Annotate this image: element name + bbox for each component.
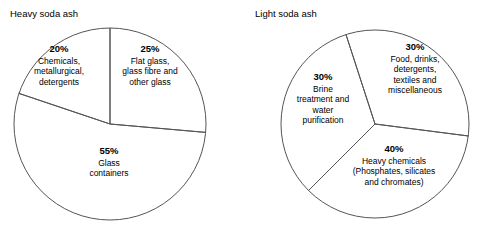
pie-chart-heavy-soda-ash: Heavy soda ash 20% Chemicals, metallurgi… (0, 0, 245, 233)
pie-figure-light: 30% Food, drinks, detergents, textiles a… (275, 24, 475, 224)
pie-figure-heavy: 20% Chemicals, metallurgical, detergents… (8, 22, 213, 227)
pie-slice-text-light-2: Heavy chemicals (Phosphates, silicates a… (331, 156, 457, 188)
pie-slice-label-heavy-1: 25% Flat glass, glass fibre and other gl… (112, 44, 188, 87)
pie-slice-text-light-1: Brine treatment and water purification (287, 84, 359, 126)
pie-slice-text-heavy-0: Chemicals, metallurgical, detergents (20, 56, 98, 88)
pie-slice-label-light-0: 30% Food, drinks, detergents, textiles a… (371, 42, 459, 96)
pie-slice-percent-heavy-0: 20% (20, 44, 98, 55)
pie-slice-label-light-2: 40% Heavy chemicals (Phosphates, silicat… (331, 144, 457, 187)
chart-title-heavy: Heavy soda ash (10, 8, 78, 19)
pie-slice-text-light-0: Food, drinks, detergents, textiles and m… (371, 54, 459, 96)
chart-title-light: Light soda ash (255, 8, 317, 19)
pie-chart-light-soda-ash: Light soda ash 30% Food, drinks, deterge… (245, 0, 490, 233)
pie-slice-percent-light-0: 30% (371, 42, 459, 53)
pie-slice-text-heavy-1: Flat glass, glass fibre and other glass (112, 56, 188, 88)
pie-slice-label-heavy-0: 20% Chemicals, metallurgical, detergents (20, 44, 98, 87)
pie-slice-percent-light-2: 40% (331, 144, 457, 155)
pie-slice-label-light-1: 30% Brine treatment and water purificati… (287, 72, 359, 126)
pie-slice-label-heavy-2: 55% Glass containers (66, 146, 152, 179)
pie-slice-text-heavy-2: Glass containers (66, 158, 152, 179)
pie-slice-percent-light-1: 30% (287, 72, 359, 83)
pie-slice-percent-heavy-2: 55% (66, 146, 152, 157)
pie-slice-percent-heavy-1: 25% (112, 44, 188, 55)
